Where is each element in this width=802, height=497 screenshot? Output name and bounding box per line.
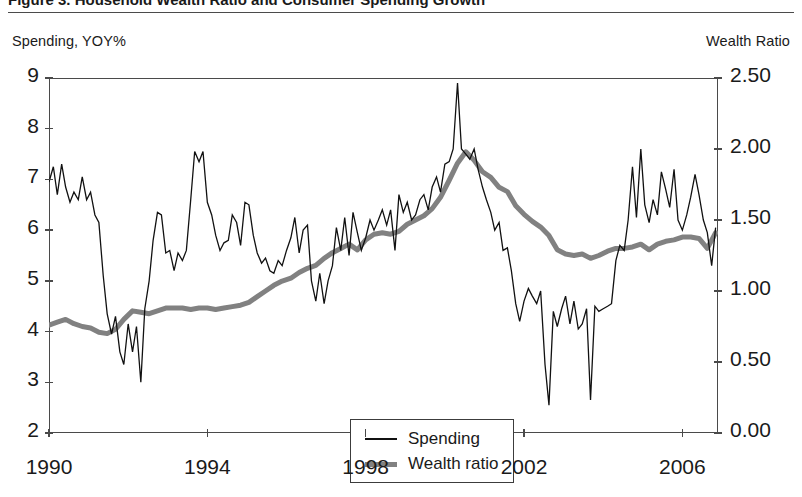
x-axis-tick-label: 2002 [489,455,559,479]
plot-area: Spending Wealth ratio [49,78,718,433]
left-axis-tick-label: 7 [27,164,39,188]
x-axis-tick-label: 1998 [331,455,401,479]
x-axis-tick [682,429,683,437]
x-axis-tick-label: 1990 [14,455,84,479]
left-axis-tick-label: 3 [27,367,39,391]
left-axis-tick-label: 9 [27,63,39,87]
title-divider [8,12,794,13]
series-line-spending [49,83,716,405]
left-axis-tick-label: 8 [27,114,39,138]
series-line-wealth-ratio [49,152,716,334]
right-axis-tick-label: 1.50 [730,205,771,229]
legend-item-spending: Spending [351,426,513,452]
right-axis-tick [714,219,722,220]
left-axis-tick-label: 5 [27,266,39,290]
left-axis-tick [45,229,53,230]
right-axis-tick-label: 1.00 [730,276,771,300]
x-axis-tick [207,429,208,437]
legend-label-spending: Spending [408,429,480,449]
series-canvas [49,78,718,433]
legend-swatch-spending-icon [365,438,397,440]
right-axis-tick [714,361,722,362]
right-axis-tick [714,148,722,149]
left-axis-tick [45,331,53,332]
left-axis-tick [45,128,53,129]
left-axis-tick [45,77,53,78]
left-axis-tick-label: 2 [27,418,39,442]
left-axis-tick [45,280,53,281]
x-axis-tick-label: 1994 [172,455,242,479]
right-axis-tick [714,77,722,78]
right-axis-tick-label: 2.00 [730,134,771,158]
left-axis-tick-label: 6 [27,215,39,239]
right-axis-tick-label: 0.50 [730,347,771,371]
left-axis-tick-label: 4 [27,317,39,341]
left-axis-unit-label: Spending, YOY% [12,33,126,49]
x-axis-tick [523,429,524,437]
right-axis-tick [714,432,722,433]
x-axis-tick [365,429,366,437]
right-axis-tick [714,290,722,291]
figure-title: Figure 3. Household Wealth Ratio and Con… [8,0,794,11]
right-axis-tick-label: 2.50 [730,63,771,87]
left-axis-tick [45,382,53,383]
right-axis-unit-label: Wealth Ratio [706,33,790,49]
chart-figure: Figure 3. Household Wealth Ratio and Con… [0,0,802,497]
x-axis-tick-label: 2006 [647,455,717,479]
x-axis-tick [48,429,49,437]
left-axis-tick [45,179,53,180]
right-axis-tick-label: 0.00 [730,418,771,442]
legend-label-wealth-ratio: Wealth ratio [408,454,498,474]
